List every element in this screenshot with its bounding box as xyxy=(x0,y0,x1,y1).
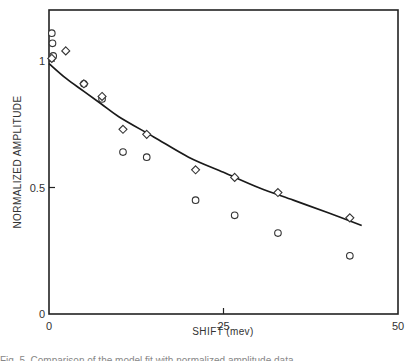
plot-frame xyxy=(49,10,398,314)
fit-curve-path xyxy=(49,64,362,226)
y-tick-label: 1 xyxy=(39,55,45,67)
diamond-marker xyxy=(231,173,239,181)
diamond-marker xyxy=(119,125,127,133)
x-axis-label: SHIFT (mev) xyxy=(192,326,253,337)
circle-marker xyxy=(120,149,127,156)
circle-marker xyxy=(275,230,282,237)
diamond-marker xyxy=(62,47,70,55)
circle-marker xyxy=(49,40,56,47)
y-axis-label: NORMALIZED AMPLITUDE xyxy=(12,95,23,228)
figure-caption: Fig. 5. Comparison of the model fit with… xyxy=(0,354,412,361)
circle-marker xyxy=(143,154,150,161)
diamond-marker xyxy=(80,80,88,88)
fit-curve xyxy=(49,64,362,226)
circle-marker xyxy=(231,212,238,219)
circle-marker xyxy=(192,197,199,204)
diamond-marker xyxy=(192,166,200,174)
axis-ticks xyxy=(49,61,224,314)
circle-marker xyxy=(347,253,354,260)
circle-marker xyxy=(48,30,55,37)
axis-tick-labels: 0255000.51 xyxy=(30,55,404,332)
diamond-markers xyxy=(48,47,354,222)
chart-figure: 0255000.51 SHIFT (mev) NORMALIZED AMPLIT… xyxy=(0,0,412,361)
x-tick-label: 0 xyxy=(46,320,52,332)
y-tick-label: 0.5 xyxy=(30,182,45,194)
x-tick-label: 50 xyxy=(392,320,404,332)
circle-markers xyxy=(48,30,353,259)
y-tick-label: 0 xyxy=(39,308,45,320)
